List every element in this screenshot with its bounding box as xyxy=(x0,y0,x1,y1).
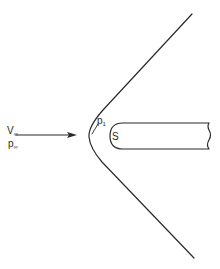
blunt-body xyxy=(110,123,211,149)
freestream-velocity-label: V∞ xyxy=(7,125,18,137)
freestream-pressure-label: p∞ xyxy=(8,138,18,150)
stagnation-point-label: S xyxy=(112,131,119,142)
bow-shock xyxy=(89,14,194,258)
post-shock-pressure-label: p1 xyxy=(97,115,107,127)
bow-shock-diagram: V∞ p∞ p1 S xyxy=(0,0,220,269)
